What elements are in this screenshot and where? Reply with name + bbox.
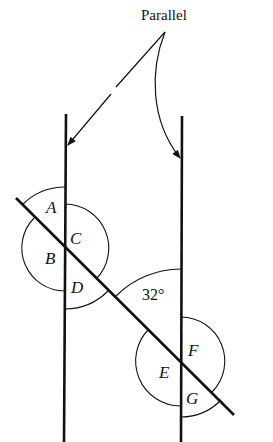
angle-label-f: F (187, 341, 199, 360)
angle-label-a: A (45, 198, 57, 217)
angle-label-e: E (158, 363, 170, 382)
transversal-line (16, 198, 234, 415)
angle-arc-b (22, 218, 65, 291)
angle-label-d: D (70, 278, 84, 297)
right-parallel-line (181, 116, 182, 442)
parallel-label: Parallel (141, 7, 187, 23)
angle-label-32-degrees: 32° (142, 286, 164, 303)
angle-arc-a (22, 187, 65, 205)
angle-label-b: B (45, 249, 56, 268)
lower-intersection-arcs (116, 269, 225, 417)
right-pointer-arrow (155, 32, 180, 158)
parallel-lines-diagram: Parallel A C B D 32° F E G (0, 0, 273, 442)
left-pointer-arrow-lower (68, 94, 111, 145)
angle-label-c: C (70, 229, 82, 248)
angle-label-g: G (186, 389, 198, 408)
left-parallel-line (64, 114, 66, 442)
pointer-arrows (68, 32, 180, 158)
